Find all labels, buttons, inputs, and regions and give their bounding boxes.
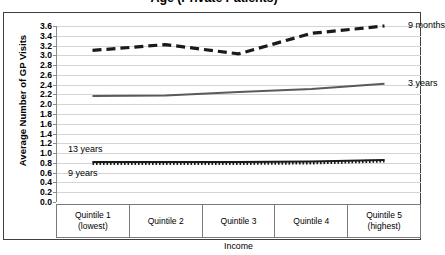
series-label: 3 years [408,79,438,88]
series-label: 13 years [68,145,103,154]
y-tick-label: 2.4 [40,80,52,89]
x-axis-category-cell: Quintile 3 [203,205,276,237]
series-line [93,26,385,54]
x-axis-category-label: Quintile 2 [148,216,184,227]
series-line [93,160,385,162]
x-axis-category-cell: Quintile 5(highest) [348,205,420,237]
x-axis-category-cell: Quintile 4 [275,205,348,237]
x-axis-category-label: Quintile 1 [75,210,111,221]
x-axis-category-table: Quintile 1(lowest)Quintile 2Quintile 3Qu… [56,204,421,238]
x-axis-category-label: Quintile 3 [221,216,257,227]
y-tick-label: 0.0 [40,198,52,207]
y-tick-label: 3.6 [40,22,52,31]
plot-area: 9 months3 years13 years9 years [56,26,421,202]
y-tick-label: 0.4 [40,178,52,187]
y-tick-label: 3.2 [40,41,52,50]
y-tick-label: 3.0 [40,51,52,60]
y-tick-label: 1.4 [40,129,52,138]
y-tick-label: 1.8 [40,110,52,119]
y-tick-label: 2.0 [40,100,52,109]
x-axis-category-cell: Quintile 2 [130,205,203,237]
series-label: 9 months [408,21,445,30]
y-tick-label: 3.4 [40,31,52,40]
y-tick-label: 1.6 [40,119,52,128]
series-label: 9 years [68,169,98,178]
x-axis-category-label: Quintile 5 [366,210,402,221]
x-axis-category-label: (highest) [368,221,401,232]
y-tick-label: 2.8 [40,61,52,70]
y-tick-label: 2.6 [40,71,52,80]
x-axis-category-label: (lowest) [78,221,108,232]
y-tick-label: 0.8 [40,159,52,168]
y-tick-label: 0.6 [40,168,52,177]
y-tick-mark [53,202,56,203]
x-axis-category-cell: Quintile 1(lowest) [57,205,130,237]
y-axis-tick-labels: 3.63.43.23.02.82.62.42.22.01.81.61.41.21… [26,26,52,202]
y-tick-label: 2.2 [40,90,52,99]
x-axis-category-label: Quintile 4 [293,216,329,227]
x-axis-title: Income [56,241,421,251]
y-tick-label: 0.2 [40,188,52,197]
series-lines [56,26,421,202]
y-tick-label: 1.2 [40,139,52,148]
y-tick-label: 1.0 [40,149,52,158]
chart-title: Age (Private Patients) [0,0,428,5]
series-line [93,84,385,96]
